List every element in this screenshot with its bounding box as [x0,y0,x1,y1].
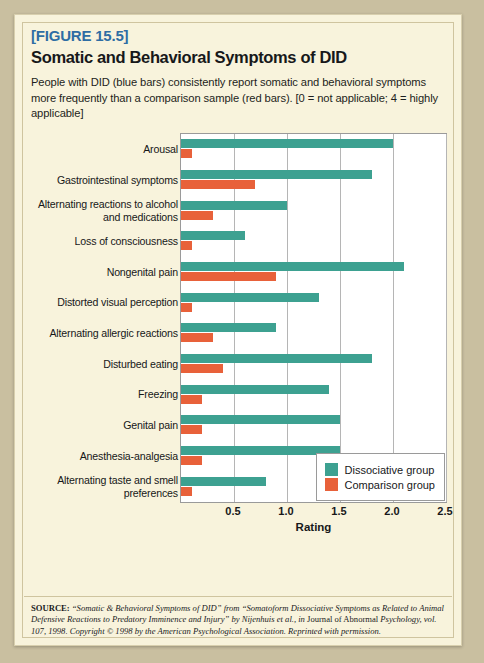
gridline-2.5 [446,134,447,502]
bar-group-row [181,134,446,165]
source-divider [24,596,452,597]
legend-label-comparison: Comparison group [345,479,436,491]
category-label: Anesthesia-analgesia [32,450,178,463]
bar-group-row [181,410,446,441]
figure-caption: People with DID (blue bars) consistently… [31,75,441,122]
bar-group-row [181,349,446,380]
bar-dissociative [181,262,404,271]
bars-group [181,134,446,502]
bar-chart: ArousalGastrointestinal symptomsAlternat… [31,133,447,545]
legend-item-comparison: Comparison group [325,478,436,491]
figure-number-label: [FIGURE 15.5] [31,27,128,44]
legend-item-dissociative: Dissociative group [325,463,436,476]
x-axis-title: Rating [180,521,447,533]
bar-comparison [181,272,276,281]
bar-group-row [181,257,446,288]
chart-legend: Dissociative group Comparison group [316,453,446,501]
category-label: Nongenital pain [32,266,178,279]
source-note: SOURCE: “Somatic & Behavioral Symptoms o… [31,603,447,637]
category-label: Distorted visual perception [32,296,178,309]
source-heading: SOURCE: [31,603,70,613]
bar-comparison [181,180,255,189]
figure-title: Somatic and Behavioral Symptoms of DID [31,48,347,67]
bar-comparison [181,456,202,465]
source-journal-name: Journal of Abnormal [307,614,378,624]
figure-card: [FIGURE 15.5] Somatic and Behavioral Sym… [14,14,462,646]
bar-group-row [181,379,446,410]
bar-comparison [181,241,192,250]
bar-group-row [181,195,446,226]
x-tick-0.5: 0.5 [225,505,240,517]
category-label: Arousal [32,143,178,156]
bar-comparison [181,425,202,434]
bar-dissociative [181,385,329,394]
bar-dissociative [181,354,372,363]
x-tick-1.0: 1.0 [278,505,293,517]
bar-comparison [181,395,202,404]
category-label: Disturbed eating [32,358,178,371]
bar-group-row [181,318,446,349]
legend-swatch-dissociative-icon [325,463,338,476]
legend-swatch-comparison-icon [325,478,338,491]
bar-comparison [181,303,192,312]
category-label: Genital pain [32,419,178,432]
legend-label-dissociative: Dissociative group [345,464,435,476]
bar-dissociative [181,201,287,210]
bar-dissociative [181,139,393,148]
bar-dissociative [181,477,266,486]
bar-comparison [181,211,213,220]
bar-dissociative [181,293,319,302]
category-label: Gastrointestinal symptoms [32,174,178,187]
bar-comparison [181,149,192,158]
bar-group-row [181,287,446,318]
plot-area: Dissociative group Comparison group [180,133,447,503]
bar-comparison [181,364,223,373]
category-label: Freezing [32,388,178,401]
bar-dissociative [181,231,245,240]
category-label-column: ArousalGastrointestinal symptomsAlternat… [31,133,178,503]
category-label: Alternating taste and smell preferences [32,474,178,499]
x-tick-2.0: 2.0 [384,505,399,517]
category-label: Loss of consciousness [32,235,178,248]
bar-group-row [181,165,446,196]
category-label: Alternating allergic reactions [32,327,178,340]
x-tick-1.5: 1.5 [331,505,346,517]
x-tick-2.5: 2.5 [437,505,452,517]
category-label: Alternating reactions to alcohol and med… [32,198,178,223]
bar-group-row [181,226,446,257]
bar-dissociative [181,323,276,332]
bar-dissociative [181,415,340,424]
bar-comparison [181,333,213,342]
bar-dissociative [181,170,372,179]
bar-comparison [181,487,192,496]
